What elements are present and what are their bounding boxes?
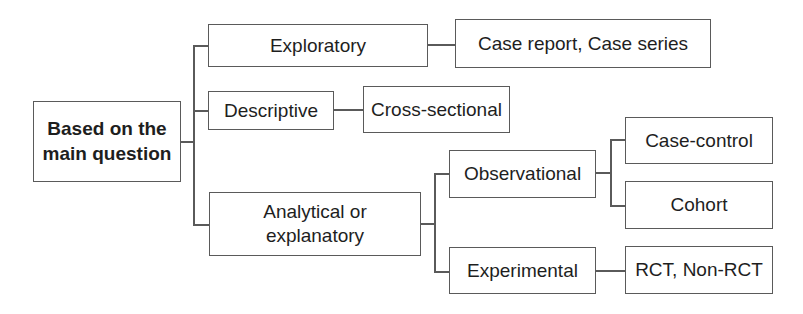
node-descriptive: Descriptive [208,91,334,130]
connector-observational-branch [595,172,611,174]
node-descriptive-label: Descriptive [224,99,318,123]
connector-trunk-descriptive [193,110,208,112]
node-exploratory-label: Exploratory [270,34,366,58]
node-experimental: Experimental [449,247,596,294]
node-analytical-label-line2: explanatory [263,224,367,248]
connector-root-trunk [180,141,194,143]
node-cross-sectional: Cross-sectional [363,86,510,133]
node-case-control-label: Case-control [645,129,753,153]
connector-exploratory-casereport [427,44,455,46]
node-cohort-label: Cohort [670,193,727,217]
connector-trunk-analytical [193,224,209,226]
study-design-tree: Based on the main question Exploratory C… [0,0,803,314]
connector-trunk-vertical [193,45,195,225]
node-case-control: Case-control [625,117,773,164]
root-node: Based on the main question [33,101,181,182]
root-label-line1: Based on the [43,117,172,142]
connector-analytical-branch [420,223,435,225]
node-observational: Observational [449,150,596,198]
root-label-line2: main question [43,142,172,167]
node-case-report: Case report, Case series [455,19,711,68]
connector-trunk-exploratory [193,45,208,47]
node-rct-label: RCT, Non-RCT [635,258,763,282]
connector-descriptive-crosssectional [333,109,363,111]
node-cross-sectional-label: Cross-sectional [371,98,502,122]
connector-branch-casecontrol [610,139,625,141]
node-analytical: Analytical or explanatory [209,192,421,256]
connector-analytical-vertical [434,173,436,272]
node-analytical-label-line1: Analytical or [263,200,367,224]
connector-experimental-rct [595,270,625,272]
node-cohort: Cohort [625,181,773,229]
node-rct: RCT, Non-RCT [625,246,773,294]
connector-branch-experimental [434,271,449,273]
node-exploratory: Exploratory [208,24,428,67]
node-case-report-label: Case report, Case series [478,32,688,56]
connector-branch-observational [434,173,449,175]
connector-branch-cohort [610,205,625,207]
node-experimental-label: Experimental [467,259,578,283]
connector-observational-vertical [610,139,612,206]
node-observational-label: Observational [464,162,581,186]
